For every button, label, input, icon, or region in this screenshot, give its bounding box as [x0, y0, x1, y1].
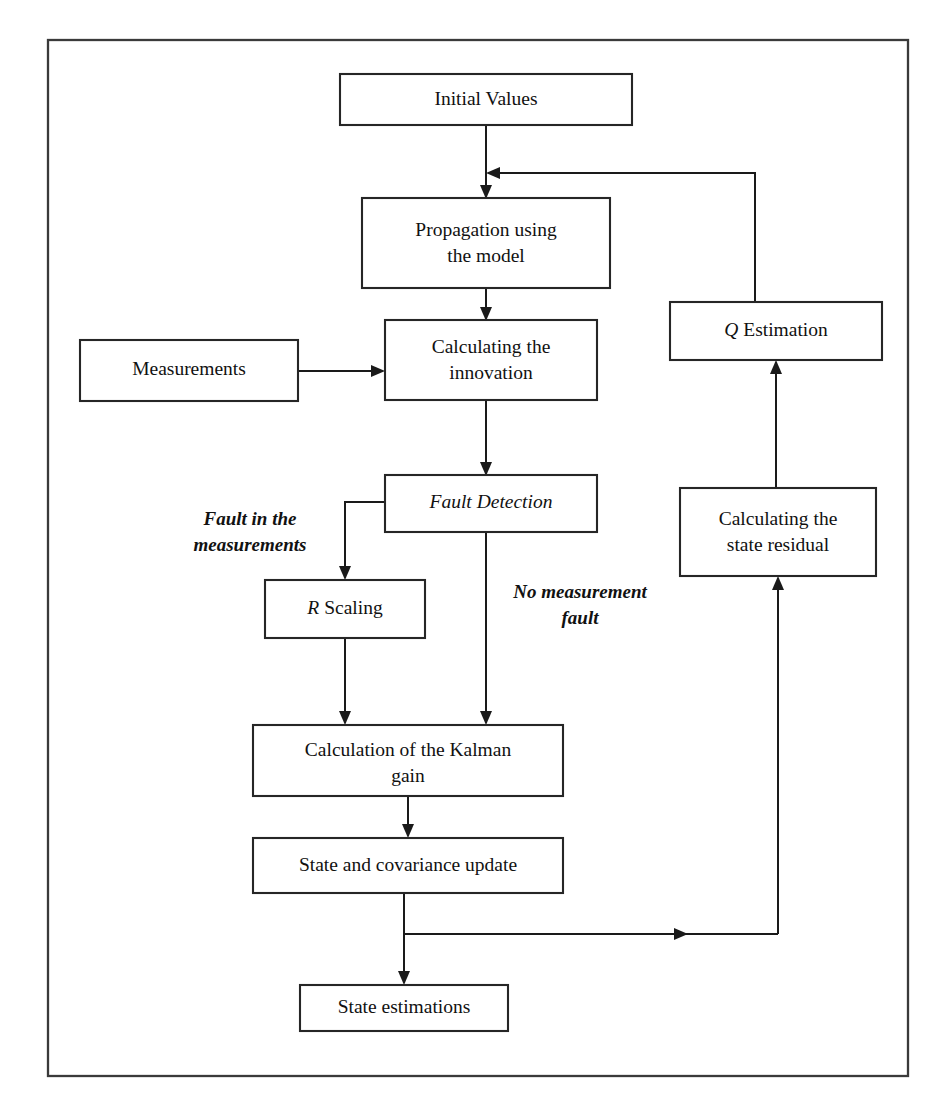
node-q-estimation-symbol: Q [724, 319, 738, 340]
edge-innovation-to-fault-detection [480, 400, 492, 476]
edge-measurements-to-innovation [298, 365, 385, 377]
node-fault-detection-label: Fault Detection [429, 491, 553, 512]
edge-label-fault-in-measurements-line2: measurements [194, 534, 307, 555]
edge-label-fault-in-measurements: Fault in the measurements [194, 508, 307, 555]
edge-initial-to-propagation [480, 125, 492, 199]
edge-label-no-measurement-fault-line1: No measurement [512, 581, 647, 602]
edge-r-scaling-to-kalman-gain [339, 638, 351, 725]
node-calculating-state-residual[interactable]: Calculating the state residual [680, 488, 876, 576]
arrowhead-icon [486, 167, 500, 179]
arrowhead-icon [480, 462, 492, 476]
node-r-scaling-label: R Scaling [306, 597, 383, 618]
arrowhead-icon [480, 185, 492, 199]
node-calculating-innovation-label-line2: innovation [449, 362, 533, 383]
edge-label-no-measurement-fault-line2: fault [562, 607, 600, 628]
edge-label-fault-in-measurements-line1: Fault in the [203, 508, 297, 529]
edge-label-no-measurement-fault: No measurement fault [512, 581, 647, 628]
edge-update-to-state-estimations [398, 893, 410, 985]
node-propagation[interactable]: Propagation using the model [362, 198, 610, 288]
arrowhead-icon [398, 971, 410, 985]
arrowhead-icon [770, 360, 782, 374]
arrowhead-icon [674, 928, 688, 940]
arrowhead-icon [371, 365, 385, 377]
node-kalman-gain[interactable]: Calculation of the Kalman gain [253, 725, 563, 796]
edge-propagation-to-innovation [480, 288, 492, 321]
node-q-estimation-label: Q Estimation [724, 319, 828, 340]
node-r-scaling[interactable]: R Scaling [265, 580, 425, 638]
arrowhead-icon [480, 307, 492, 321]
node-initial-values-label: Initial Values [434, 88, 537, 109]
node-kalman-gain-label-line1: Calculation of the Kalman [305, 739, 512, 760]
node-calculating-state-residual-label-line1: Calculating the [719, 508, 838, 529]
node-state-estimations[interactable]: State estimations [300, 985, 508, 1031]
node-calculating-innovation[interactable]: Calculating the innovation [385, 320, 597, 400]
node-calculating-innovation-label-line1: Calculating the [432, 336, 551, 357]
node-measurements[interactable]: Measurements [80, 340, 298, 401]
flowchart-canvas: Initial Values Propagation using the mod… [0, 0, 947, 1111]
arrowhead-icon [339, 711, 351, 725]
node-q-estimation[interactable]: Q Estimation [670, 302, 882, 360]
node-propagation-label-line2: the model [447, 245, 525, 266]
edge-fault-detection-to-kalman-gain [480, 532, 492, 725]
arrowhead-icon [772, 576, 784, 590]
edge-kalman-gain-to-update [402, 796, 414, 838]
arrowhead-icon [402, 824, 414, 838]
arrowhead-icon [480, 711, 492, 725]
node-initial-values[interactable]: Initial Values [340, 74, 632, 125]
node-propagation-label-line1: Propagation using [415, 219, 557, 240]
node-measurements-label: Measurements [132, 358, 246, 379]
node-fault-detection[interactable]: Fault Detection [385, 475, 597, 532]
node-r-scaling-symbol: R [306, 597, 319, 618]
node-calculating-state-residual-label-line2: state residual [727, 534, 830, 555]
edge-fault-detection-to-r-scaling [339, 502, 385, 580]
node-state-covariance-update[interactable]: State and covariance update [253, 838, 563, 893]
node-kalman-gain-label-line2: gain [391, 765, 425, 786]
node-state-covariance-update-label: State and covariance update [299, 854, 517, 875]
arrowhead-icon [339, 566, 351, 580]
node-state-estimations-label: State estimations [338, 996, 471, 1017]
edge-state-residual-to-q-estimation [770, 360, 782, 488]
